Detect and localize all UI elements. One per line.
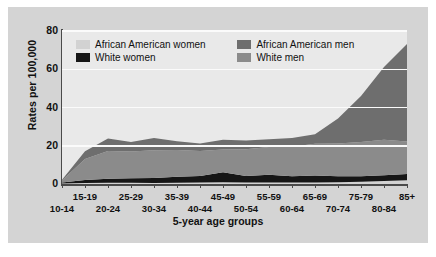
- legend-swatch-african-american-women: [76, 40, 90, 49]
- gridline-40: [62, 107, 407, 109]
- legend-label-african-american-men: African American men: [256, 39, 354, 50]
- y-tick-label-20: 20: [32, 139, 58, 151]
- legend-item-white-men: White men: [237, 52, 376, 63]
- legend-label-african-american-women: African American women: [95, 39, 206, 50]
- x-tick-75-79: [361, 184, 362, 188]
- y-tick-label-80: 80: [32, 24, 58, 36]
- x-tick-80-84: [384, 184, 385, 188]
- x-tick-label-35-39: 35-39: [155, 191, 199, 202]
- x-tick-label-60-64: 60-64: [270, 203, 314, 214]
- y-tick-label-60: 60: [32, 62, 58, 74]
- legend-label-white-men: White men: [256, 52, 304, 63]
- legend-item-african-american-women: African American women: [76, 39, 227, 50]
- legend-swatch-white-men: [237, 53, 251, 62]
- plot-area: African American women African American …: [62, 31, 407, 184]
- x-tick-45-49: [223, 184, 224, 188]
- x-tick-60-64: [292, 184, 293, 188]
- y-tick-label-0: 0: [32, 177, 58, 189]
- y-tick-label-40: 40: [32, 101, 58, 113]
- x-tick-30-34: [154, 184, 155, 188]
- x-tick-55-59: [269, 184, 270, 188]
- x-tick-label-40-44: 40-44: [178, 203, 222, 214]
- x-tick-label-80-84: 80-84: [362, 203, 406, 214]
- x-tick-40-44: [200, 184, 201, 188]
- x-tick-label-50-54: 50-54: [224, 203, 268, 214]
- x-tick-label-55-59: 55-59: [247, 191, 291, 202]
- legend-swatch-white-women: [76, 53, 90, 62]
- x-tick-label-70-74: 70-74: [316, 203, 360, 214]
- x-tick-20-24: [108, 184, 109, 188]
- x-tick-label-45-49: 45-49: [201, 191, 245, 202]
- x-tick-65-69: [315, 184, 316, 188]
- x-tick-10-14: [62, 184, 63, 188]
- x-tick-70-74: [338, 184, 339, 188]
- chart-legend: African American women African American …: [76, 39, 376, 63]
- x-tick-85+: [407, 184, 408, 188]
- x-tick-50-54: [246, 184, 247, 188]
- x-tick-label-15-19: 15-19: [63, 191, 107, 202]
- x-tick-label-85+: 85+: [385, 191, 429, 202]
- x-tick-label-10-14: 10-14: [40, 203, 84, 214]
- x-tick-label-30-34: 30-34: [132, 203, 176, 214]
- x-axis-line: [61, 184, 408, 186]
- x-tick-label-25-29: 25-29: [109, 191, 153, 202]
- legend-item-african-american-men: African American men: [237, 39, 376, 50]
- x-tick-35-39: [177, 184, 178, 188]
- y-axis-title: Rates per 100,000: [26, 15, 38, 155]
- x-axis-title: 5-year age groups: [8, 215, 428, 227]
- legend-label-white-women: White women: [95, 52, 156, 63]
- x-tick-label-65-69: 65-69: [293, 191, 337, 202]
- gridline-20: [62, 145, 407, 147]
- legend-swatch-african-american-men: [237, 40, 251, 49]
- gridline-80: [62, 30, 407, 32]
- chart-figure: Rates per 100,000 020406080 10-1415-1920…: [8, 7, 428, 243]
- x-tick-25-29: [131, 184, 132, 188]
- x-tick-label-20-24: 20-24: [86, 203, 130, 214]
- x-tick-label-75-79: 75-79: [339, 191, 383, 202]
- x-tick-15-19: [85, 184, 86, 188]
- legend-item-white-women: White women: [76, 52, 227, 63]
- gridline-60: [62, 69, 407, 71]
